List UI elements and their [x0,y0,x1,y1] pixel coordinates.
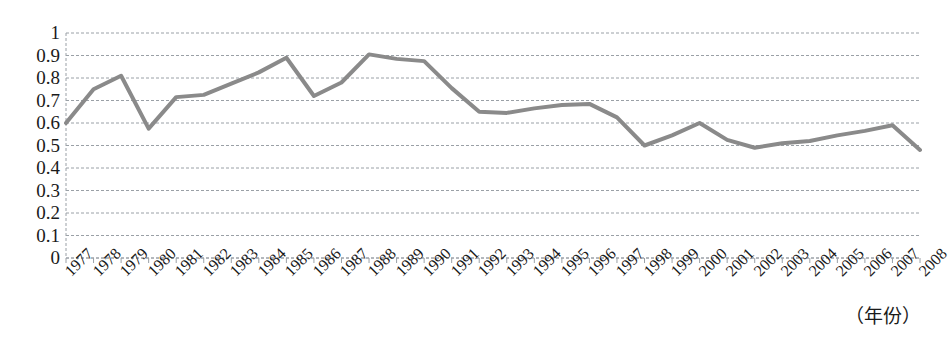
x-tick-label: 2002 [751,245,785,279]
x-tick-label: 1990 [420,245,454,279]
x-tick-label: 1978 [90,245,124,279]
x-tick-label: 1977 [62,245,96,279]
x-tick-label: 1998 [641,245,675,279]
x-tick-label: 1999 [668,245,702,279]
x-tick-label: 1982 [200,245,234,279]
x-tick-label: 2005 [833,245,867,279]
x-tick-label: 1984 [255,245,289,279]
x-axis-title: （年份） [845,306,921,326]
x-tick-label: 1995 [558,245,592,279]
x-tick-label: 2001 [723,245,757,279]
x-tick-label: 1979 [117,245,151,279]
x-tick-label: 2000 [696,245,730,279]
x-tick-label: 1994 [530,245,564,279]
x-tick-label: 1988 [365,245,399,279]
x-tick-label: 1981 [172,245,206,279]
x-tick-label: 2008 [916,245,950,279]
x-tick-label: 1985 [282,245,316,279]
x-tick-label: 2006 [861,245,895,279]
x-tick-label: 1983 [227,245,261,279]
x-tick-label: 1986 [310,245,344,279]
x-tick-label: 2003 [778,245,812,279]
x-tick-label: 1996 [585,245,619,279]
x-tick-label: 1991 [448,245,482,279]
x-tick-label: 1992 [475,245,509,279]
x-tick-label: 2004 [806,245,840,279]
x-tick-label: 2007 [888,245,922,279]
x-tick-label: 1987 [337,245,371,279]
x-tick-label: 1989 [393,245,427,279]
x-tick-label: 1997 [613,245,647,279]
x-tick-label: 1980 [145,245,179,279]
x-tick-label: 1993 [503,245,537,279]
